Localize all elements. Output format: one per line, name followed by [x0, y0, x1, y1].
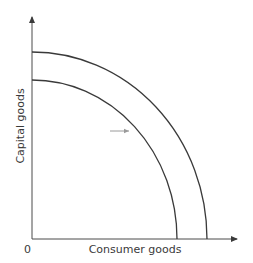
x-axis-label: Consumer goods — [89, 243, 182, 256]
origin-label: 0 — [24, 243, 31, 256]
ppf-chart: 0 Consumer goods Capital goods — [0, 0, 253, 263]
ppf-outer-curve — [32, 52, 207, 239]
ppf-inner-curve — [32, 80, 177, 239]
y-axis-label: Capital goods — [14, 88, 27, 163]
